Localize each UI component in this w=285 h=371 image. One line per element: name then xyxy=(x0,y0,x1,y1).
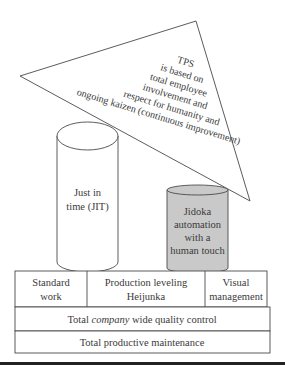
jit-pillar: Just in time (JIT) xyxy=(57,122,118,272)
visual-management-1: Visual xyxy=(223,277,250,288)
heijunka-1: Production leveling xyxy=(105,277,188,288)
jidoka-label-1: Jidoka xyxy=(184,206,212,217)
tps-house-diagram: Just in time (JIT) Jidoka automation wit… xyxy=(0,0,285,371)
jit-label-2: time (JIT) xyxy=(66,201,109,213)
jidoka-pillar: Jidoka automation with a human touch xyxy=(167,185,228,273)
standard-work-2: work xyxy=(40,291,62,302)
quality-control-label: Total company wide quality control xyxy=(67,314,216,325)
roof-triangle: TPS is based on total employee involveme… xyxy=(20,21,259,201)
foundation-row-3: Total productive maintenance xyxy=(15,331,270,353)
heijunka-2: Heijunka xyxy=(127,291,166,302)
bottom-rule xyxy=(0,362,285,365)
jidoka-label-2: automation xyxy=(174,219,222,230)
jidoka-label-3: with a xyxy=(185,232,211,243)
jidoka-label-4: human touch xyxy=(170,245,225,256)
tpm-label: Total productive maintenance xyxy=(80,337,205,348)
standard-work-1: Standard xyxy=(32,277,70,288)
jit-label-1: Just in xyxy=(74,187,102,198)
foundation-row-2: Total company wide quality control xyxy=(15,307,270,331)
visual-management-2: management xyxy=(209,291,263,302)
foundation-row-1: Standard work Production leveling Heijun… xyxy=(15,271,267,307)
